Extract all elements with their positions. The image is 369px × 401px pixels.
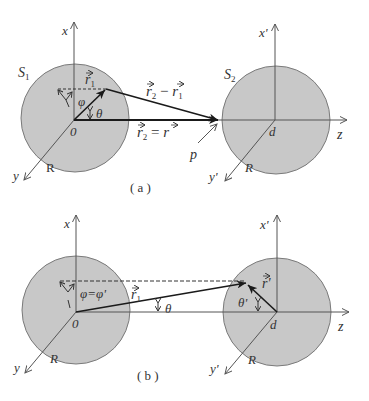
r-prime-label: r' — [262, 276, 271, 291]
panel-a: x y x' y' z S1 S2 0 d R R φ θ r1 r2 − r1… — [11, 22, 347, 195]
panel-a-caption: ( a ) — [130, 180, 151, 195]
origin-label: 0 — [70, 124, 77, 139]
radius-label-s2-b: R — [247, 352, 256, 367]
s2-label: S2 — [224, 67, 236, 84]
theta-label-b: θ — [165, 301, 172, 316]
point-p-pointer — [198, 124, 217, 143]
theta-label: θ — [96, 106, 103, 121]
svg-text:r1: r1 — [131, 287, 141, 304]
radius-label-s1-b: R — [49, 351, 58, 366]
origin-label-b: 0 — [72, 316, 79, 331]
y-prime-axis-label: y' — [207, 169, 218, 184]
r1-label-b: r1 — [131, 287, 141, 304]
y-prime-axis-label-b: y' — [208, 361, 219, 376]
two-sphere-diagram: x y x' y' z S1 S2 0 d R R φ θ r1 r2 − r1… — [0, 0, 369, 401]
d-label-b: d — [270, 317, 277, 332]
y-axis-label-b: y — [12, 360, 20, 375]
phi-equals-phi-prime-label: φ=φ' — [80, 286, 106, 301]
r2-minus-r1-label: r2 − r1 — [146, 83, 184, 101]
theta-prime-label: θ' — [238, 295, 247, 310]
d-label: d — [269, 124, 276, 139]
z-axis-label: z — [336, 127, 343, 142]
x-axis-label-b: x — [63, 216, 70, 231]
point-p-label: p — [189, 147, 197, 162]
radius-label-s1: R — [46, 160, 55, 175]
y-axis-label: y — [11, 168, 19, 183]
x-axis-label: x — [61, 23, 68, 38]
x-prime-axis-label-b: x' — [259, 217, 269, 232]
svg-text:r': r' — [262, 276, 271, 291]
r2-equals-r-label: r2 = r — [137, 124, 178, 142]
s1-label: S1 — [18, 65, 30, 82]
radius-label-s2: R — [244, 160, 253, 175]
x-prime-axis-label: x' — [258, 25, 268, 40]
svg-text:r2 = r: r2 = r — [137, 124, 169, 142]
z-axis-label-b: z — [337, 319, 344, 334]
phi-label: φ — [78, 94, 85, 109]
panel-b-caption: ( b ) — [137, 368, 159, 383]
svg-text:r2 − r1: r2 − r1 — [146, 83, 183, 101]
panel-b: x y x' y' z 0 d R R φ=φ' θ θ' r1 r' ( b … — [12, 215, 349, 383]
